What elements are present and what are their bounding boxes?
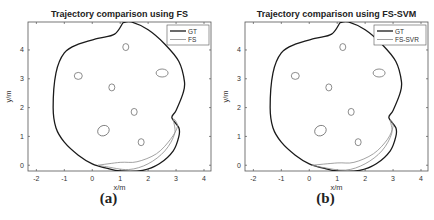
- landmark-shape: [326, 84, 332, 91]
- chart-title: Trajectory comparison using FS-SVM: [257, 9, 417, 19]
- legend-label: FS-SVR: [395, 36, 419, 43]
- panel-b: Trajectory comparison using FS-SVM-2-101…: [217, 0, 434, 220]
- chart-title: Trajectory comparison using FS: [51, 9, 188, 19]
- x-tick-label: 1: [335, 175, 339, 182]
- y-tick-label: 4: [20, 46, 24, 53]
- y-tick-label: 3: [20, 75, 24, 82]
- y-tick-label: 4: [237, 46, 241, 53]
- caption-b: (b): [217, 190, 434, 207]
- landmark-shape: [373, 69, 385, 77]
- x-tick-label: 2: [146, 175, 150, 182]
- x-tick-label: -2: [250, 175, 256, 182]
- x-tick-label: 3: [391, 175, 395, 182]
- y-tick-label: 1: [237, 133, 241, 140]
- plot-area: [53, 22, 185, 172]
- x-tick-label: -1: [278, 175, 284, 182]
- estimated-trajectory: [312, 120, 393, 170]
- landmark-shape: [96, 123, 111, 138]
- y-tick-label: 2: [20, 104, 24, 111]
- estimated-trajectory: [98, 119, 178, 170]
- x-tick-label: -1: [61, 175, 67, 182]
- x-tick-label: 4: [419, 175, 423, 182]
- legend-label: GT: [188, 28, 197, 35]
- x-tick-label: 1: [118, 175, 122, 182]
- landmark-shape: [340, 44, 346, 51]
- landmark-shape: [74, 72, 82, 79]
- y-tick-label: 0: [20, 162, 24, 169]
- landmark-shape: [156, 69, 168, 77]
- gt-trajectory: [53, 22, 185, 172]
- x-tick-label: -2: [33, 175, 39, 182]
- x-tick-label: 3: [174, 175, 178, 182]
- landmark-shape: [355, 139, 361, 146]
- caption-a: (a): [0, 190, 217, 207]
- x-tick-label: 2: [363, 175, 367, 182]
- y-axis-label: y/m: [221, 90, 230, 102]
- plot-b: Trajectory comparison using FS-SVM-2-101…: [217, 0, 434, 220]
- x-tick-label: 0: [90, 175, 94, 182]
- y-tick-label: 1: [20, 133, 24, 140]
- landmark-shape: [109, 84, 115, 91]
- y-tick-label: 3: [237, 75, 241, 82]
- landmark-shape: [138, 139, 144, 146]
- x-tick-label: 4: [202, 175, 206, 182]
- y-tick-label: 0: [237, 162, 241, 169]
- landmark-shape: [123, 44, 129, 51]
- y-axis-label: y/m: [4, 90, 13, 102]
- y-tick-label: 2: [237, 104, 241, 111]
- landmark-shape: [131, 108, 137, 115]
- landmark-shape: [313, 123, 328, 138]
- x-tick-label: 0: [307, 175, 311, 182]
- panel-a: Trajectory comparison using FS-2-1012340…: [0, 0, 217, 220]
- legend-label: FS: [188, 36, 197, 43]
- landmark-shape: [348, 108, 354, 115]
- legend-label: GT: [395, 28, 404, 35]
- plot-a: Trajectory comparison using FS-2-1012340…: [0, 0, 217, 220]
- landmark-shape: [291, 72, 299, 79]
